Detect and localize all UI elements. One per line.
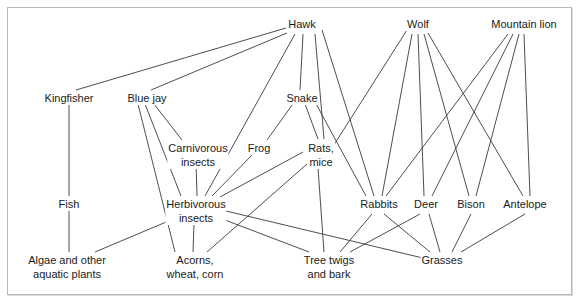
node-frog: Frog bbox=[247, 141, 272, 155]
edge-snake-to-frog bbox=[267, 101, 295, 140]
node-algae: Algae and other aquatic plants bbox=[27, 253, 107, 281]
node-label: Bison bbox=[457, 198, 485, 210]
node-bison: Bison bbox=[456, 197, 486, 211]
edge-hawk-to-rats_mice bbox=[315, 34, 324, 139]
edge-blue_jay-to-acorns bbox=[138, 104, 175, 252]
node-acorns: Acorns, wheat, corn bbox=[166, 253, 225, 281]
edge-antelope-to-grasses bbox=[461, 214, 525, 252]
node-label-line2: aquatic plants bbox=[28, 267, 106, 281]
node-label-line2: wheat, corn bbox=[167, 267, 224, 281]
node-herbivorous-insects: Herbivorous insects bbox=[165, 197, 226, 225]
node-label: Deer bbox=[414, 198, 438, 210]
node-label-line2: insects bbox=[168, 155, 227, 169]
edge-mountain_lion-to-deer bbox=[432, 34, 513, 196]
node-rats-mice: Rats, mice bbox=[307, 141, 335, 169]
node-snake: Snake bbox=[285, 91, 318, 105]
edge-rabbits-to-grasses bbox=[384, 214, 430, 252]
node-label-line1: Acorns, bbox=[167, 253, 224, 267]
node-rabbits: Rabbits bbox=[359, 197, 398, 211]
edge-deer-to-tree_twigs bbox=[350, 214, 420, 252]
node-hawk: Hawk bbox=[287, 17, 317, 31]
node-grasses: Grasses bbox=[421, 253, 464, 267]
edge-herbivorous_insects-to-acorns bbox=[193, 224, 194, 252]
node-label: Snake bbox=[286, 92, 317, 104]
edge-hawk-to-kingfisher bbox=[76, 28, 286, 90]
edge-mountain_lion-to-bison bbox=[476, 34, 519, 196]
node-label: Mountain lion bbox=[491, 18, 556, 30]
node-carnivorous-insects: Carnivorous insects bbox=[167, 141, 228, 169]
edge-hawk-to-snake bbox=[300, 34, 303, 90]
edge-rats_mice-to-tree_twigs bbox=[318, 168, 324, 252]
edge-mountain_lion-to-antelope bbox=[524, 34, 530, 196]
node-label: Fish bbox=[59, 198, 80, 210]
edge-wolf-to-antelope bbox=[428, 33, 523, 196]
node-label: Hawk bbox=[288, 18, 316, 30]
edge-blue_jay-to-carnivorous_insects bbox=[154, 104, 182, 140]
node-label: Frog bbox=[248, 142, 271, 154]
edge-deer-to-grasses bbox=[429, 214, 440, 252]
edge-wolf-to-rabbits bbox=[382, 34, 412, 196]
node-label-line1: Rats, bbox=[308, 141, 334, 155]
node-label-line2: and bark bbox=[304, 267, 354, 281]
node-label-line2: insects bbox=[166, 211, 225, 225]
edge-hawk-to-rabbits bbox=[322, 30, 374, 196]
node-label-line1: Carnivorous bbox=[168, 141, 227, 155]
node-antelope: Antelope bbox=[502, 197, 547, 211]
edge-hawk-to-herbivorous_insects bbox=[205, 34, 295, 196]
node-mountain-lion: Mountain lion bbox=[490, 17, 557, 31]
edge-wolf-to-deer bbox=[418, 34, 424, 196]
edge-herbivorous_insects-to-grasses bbox=[226, 211, 427, 259]
edge-mountain_lion-to-rabbits bbox=[386, 34, 508, 196]
node-label-line1: Herbivorous bbox=[166, 197, 225, 211]
edge-snake-to-rats_mice bbox=[305, 104, 318, 139]
node-blue-jay: Blue jay bbox=[126, 91, 167, 105]
node-wolf: Wolf bbox=[406, 17, 430, 31]
node-label-line1: Algae and other bbox=[28, 253, 106, 267]
node-deer: Deer bbox=[413, 197, 439, 211]
node-kingfisher: Kingfisher bbox=[44, 91, 95, 105]
edge-wolf-to-rats_mice bbox=[332, 30, 407, 148]
edge-bison-to-grasses bbox=[452, 214, 471, 252]
node-label-line2: mice bbox=[308, 155, 334, 169]
edge-rabbits-to-tree_twigs bbox=[340, 214, 372, 252]
node-label: Wolf bbox=[407, 18, 429, 30]
node-label: Rabbits bbox=[360, 198, 397, 210]
node-label-line1: Tree twigs bbox=[304, 253, 354, 267]
node-label: Blue jay bbox=[127, 92, 166, 104]
edge-herbivorous_insects-to-tree_twigs bbox=[217, 217, 309, 252]
node-tree-twigs: Tree twigs and bark bbox=[303, 253, 355, 281]
node-label: Antelope bbox=[503, 198, 546, 210]
node-fish: Fish bbox=[58, 197, 81, 211]
node-label: Grasses bbox=[422, 254, 463, 266]
node-label: Kingfisher bbox=[45, 92, 94, 104]
